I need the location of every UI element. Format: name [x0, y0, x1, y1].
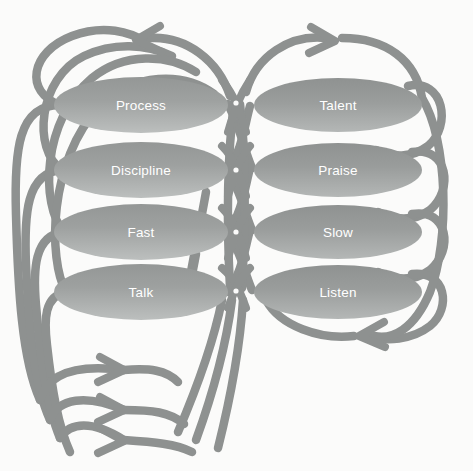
bottom-left-arrowhead-3	[98, 428, 124, 453]
crossing-dot-4	[233, 288, 238, 293]
node-praise[interactable]: Praise	[254, 143, 422, 197]
node-discipline-label: Discipline	[111, 163, 171, 178]
node-listen-label: Listen	[319, 285, 356, 300]
diagram-canvas: Process Discipline Fast Talk Talent	[0, 0, 473, 471]
node-slow[interactable]: Slow	[254, 205, 422, 259]
node-listen[interactable]: Listen	[254, 265, 422, 319]
node-talent-label: Talent	[319, 98, 356, 113]
arc-bottom-tail-1	[124, 369, 178, 382]
node-talent[interactable]: Talent	[254, 78, 422, 132]
node-process[interactable]: Process	[54, 77, 228, 133]
node-praise-label: Praise	[318, 163, 357, 178]
cycle-loop-diagram: Process Discipline Fast Talk Talent	[0, 0, 473, 471]
node-fast[interactable]: Fast	[54, 204, 228, 260]
node-fast-label: Fast	[127, 225, 154, 240]
arc-bottom-tail-3	[124, 440, 192, 452]
node-discipline[interactable]: Discipline	[54, 142, 228, 198]
crossing-dot-2	[233, 167, 238, 172]
crossing-dot-3	[233, 229, 238, 234]
node-talk[interactable]: Talk	[54, 264, 228, 320]
node-slow-label: Slow	[323, 225, 353, 240]
arc-bottom-tail-2	[124, 410, 184, 424]
node-talk-label: Talk	[129, 285, 154, 300]
crossing-dot-1	[233, 100, 238, 105]
node-process-label: Process	[116, 98, 166, 113]
